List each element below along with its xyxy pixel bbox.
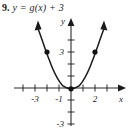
y-tick-label-3: 3: [59, 47, 65, 57]
problem-expression: y = g(x) + 3: [13, 2, 64, 13]
marked-point: [44, 49, 49, 54]
x-axis-arrow-icon: [118, 85, 126, 92]
graph-canvas: -3 -1 2 3 -3 y x: [0, 14, 129, 135]
x-axis-label: x: [118, 94, 123, 104]
x-tick-label-2: 2: [93, 94, 98, 104]
curve-left-arrow-icon: [35, 21, 42, 31]
marked-point-vertex: [68, 86, 73, 91]
coordinate-plot: -3 -1 2 3 -3 y x: [0, 14, 129, 135]
y-tick-label-neg3: -3: [57, 119, 65, 129]
exercise-figure: 9.y = g(x) + 3: [0, 0, 129, 135]
marked-point: [92, 49, 97, 54]
y-axis-label: y: [60, 16, 65, 26]
x-tick-label-neg1: -1: [55, 94, 63, 104]
problem-header: 9.y = g(x) + 3: [2, 1, 127, 15]
problem-number: 9.: [2, 2, 10, 13]
x-tick-label-neg3: -3: [31, 94, 39, 104]
y-axis-arrow-icon: [68, 18, 75, 26]
curve-right-arrow-icon: [100, 21, 107, 31]
